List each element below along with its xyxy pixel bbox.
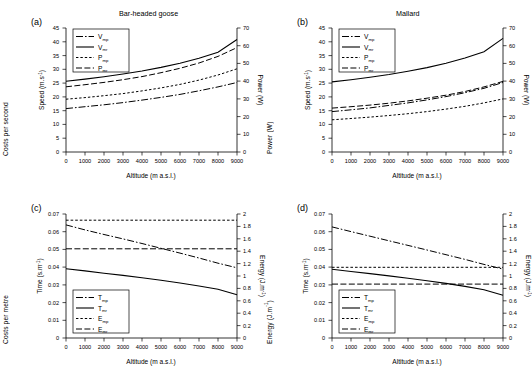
svg-text:10: 10: [243, 131, 249, 137]
svg-text:45: 45: [319, 25, 325, 31]
svg-text:Energy (J.m-1): Energy (J.m-1): [524, 255, 532, 297]
panel-c-series-tmp: [66, 225, 237, 268]
svg-text:45: 45: [53, 25, 59, 31]
svg-text:10: 10: [53, 121, 59, 127]
panel-d-x-ticks: 0 1000 2000 3000 4000 5000 6000 7000 800…: [330, 338, 509, 350]
panel-a: 0 5 10 15 20 25 30 35 40 45 0 10 20 30 4…: [0, 0, 266, 186]
svg-text:3000: 3000: [117, 344, 129, 350]
panel-b-series-vmp: [332, 83, 503, 112]
svg-text:0.07: 0.07: [48, 211, 59, 217]
svg-text:0.06: 0.06: [314, 229, 325, 235]
svg-text:1000: 1000: [345, 344, 357, 350]
svg-text:0.2: 0.2: [509, 323, 517, 329]
svg-text:9000: 9000: [231, 158, 243, 164]
svg-text:0.03: 0.03: [48, 282, 59, 288]
svg-text:40: 40: [243, 78, 249, 84]
svg-text:5: 5: [56, 135, 59, 141]
svg-text:0: 0: [243, 149, 246, 155]
svg-text:0: 0: [56, 335, 59, 341]
svg-text:30: 30: [509, 96, 515, 102]
svg-text:1.8: 1.8: [509, 223, 517, 229]
svg-text:20: 20: [319, 94, 325, 100]
svg-text:40: 40: [53, 39, 59, 45]
svg-text:40: 40: [319, 39, 325, 45]
panel-a-x-ticks: 0 1000 2000 3000 4000 5000 6000 7000 800…: [64, 152, 243, 164]
panel-d-plot: 0 0.01 0.02 0.03 0.04 0.05 0.06 0.07 0 0…: [266, 186, 532, 372]
svg-text:1000: 1000: [345, 158, 357, 164]
svg-text:Energy (J.m-1): Energy (J.m-1): [258, 255, 266, 297]
svg-text:1.2: 1.2: [243, 261, 251, 267]
svg-text:1: 1: [509, 273, 512, 279]
svg-text:40: 40: [509, 78, 515, 84]
svg-text:70: 70: [509, 25, 515, 31]
panel-a-right-ticks: 0 10 20 30 40 50 60 70: [237, 25, 249, 155]
svg-text:0.05: 0.05: [48, 246, 59, 252]
svg-text:0: 0: [322, 149, 325, 155]
svg-text:7000: 7000: [459, 158, 471, 164]
svg-text:3000: 3000: [383, 158, 395, 164]
panel-c-x-ticks: 0 1000 2000 3000 4000 5000 6000 7000 800…: [64, 338, 243, 350]
svg-text:0.06: 0.06: [48, 229, 59, 235]
svg-text:0: 0: [509, 149, 512, 155]
panel-c: 0 0.01 0.02 0.03 0.04 0.05 0.06 0.07 0 0…: [0, 186, 266, 372]
panel-b: 0 5 10 15 20 25 30 35 40 45 0 10 20 30 4…: [266, 0, 532, 186]
svg-text:0.2: 0.2: [243, 323, 251, 329]
svg-text:5: 5: [322, 135, 325, 141]
svg-text:30: 30: [243, 96, 249, 102]
svg-text:6000: 6000: [174, 344, 186, 350]
svg-text:1.4: 1.4: [243, 248, 251, 254]
svg-text:Altitude (m a.s.l.): Altitude (m a.s.l.): [392, 358, 441, 366]
svg-text:Time (s.m-1): Time (s.m-1): [36, 258, 44, 293]
svg-text:20: 20: [53, 94, 59, 100]
svg-text:Power (W): Power (W): [522, 74, 530, 105]
svg-text:15: 15: [319, 108, 325, 114]
panel-d-left-ticks: 0 0.01 0.02 0.03 0.04 0.05 0.06 0.07: [314, 211, 332, 341]
svg-text:9000: 9000: [231, 344, 243, 350]
svg-text:0: 0: [64, 344, 67, 350]
svg-text:9000: 9000: [497, 344, 509, 350]
svg-text:5000: 5000: [155, 158, 167, 164]
svg-text:2000: 2000: [98, 344, 110, 350]
svg-text:5000: 5000: [421, 344, 433, 350]
svg-text:2: 2: [243, 211, 246, 217]
svg-text:Speed (m.s-1): Speed (m.s-1): [304, 70, 312, 110]
svg-text:4000: 4000: [402, 158, 414, 164]
svg-text:0.02: 0.02: [48, 300, 59, 306]
svg-text:35: 35: [319, 53, 325, 59]
svg-text:0: 0: [243, 335, 246, 341]
svg-text:25: 25: [53, 80, 59, 86]
svg-text:10: 10: [509, 131, 515, 137]
panel-b-right-ticks: 0 10 20 30 40 50 60 70: [503, 25, 515, 155]
svg-text:Altitude (m a.s.l.): Altitude (m a.s.l.): [126, 358, 175, 366]
svg-text:0.01: 0.01: [48, 317, 59, 323]
panel-d-tag: (d): [297, 203, 308, 213]
svg-text:7000: 7000: [459, 344, 471, 350]
svg-text:0: 0: [330, 344, 333, 350]
svg-text:8000: 8000: [212, 344, 224, 350]
panel-c-tag: (c): [31, 203, 42, 213]
panel-c-left-ticks: 0 0.01 0.02 0.03 0.04 0.05 0.06 0.07: [48, 211, 66, 341]
panel-b-title: Mallard: [396, 9, 420, 18]
panel-b-left-ticks: 0 5 10 15 20 25 30 35 40 45: [319, 25, 332, 155]
svg-text:10: 10: [319, 121, 325, 127]
svg-text:0.8: 0.8: [243, 285, 251, 291]
svg-text:30: 30: [319, 66, 325, 72]
svg-text:0.6: 0.6: [243, 298, 251, 304]
svg-text:Altitude (m a.s.l.): Altitude (m a.s.l.): [392, 172, 441, 180]
svg-text:1.2: 1.2: [509, 261, 517, 267]
panel-a-series-vmp: [66, 83, 237, 109]
svg-text:8000: 8000: [478, 158, 490, 164]
svg-text:0: 0: [56, 149, 59, 155]
svg-text:20: 20: [509, 114, 515, 120]
panel-a-left-ticks: 0 5 10 15 20 25 30 35 40 45: [53, 25, 66, 155]
svg-text:35: 35: [53, 53, 59, 59]
svg-text:9000: 9000: [497, 158, 509, 164]
svg-text:1: 1: [243, 273, 246, 279]
svg-text:60: 60: [509, 43, 515, 49]
svg-text:25: 25: [319, 80, 325, 86]
svg-text:3000: 3000: [383, 344, 395, 350]
panel-d-right-ticks: 0 0.2 0.4 0.6 0.8 1 1.2 1.4 1.6 1.8 2: [503, 211, 517, 341]
svg-text:0: 0: [330, 158, 333, 164]
svg-text:2000: 2000: [364, 344, 376, 350]
svg-text:0.04: 0.04: [48, 264, 59, 270]
